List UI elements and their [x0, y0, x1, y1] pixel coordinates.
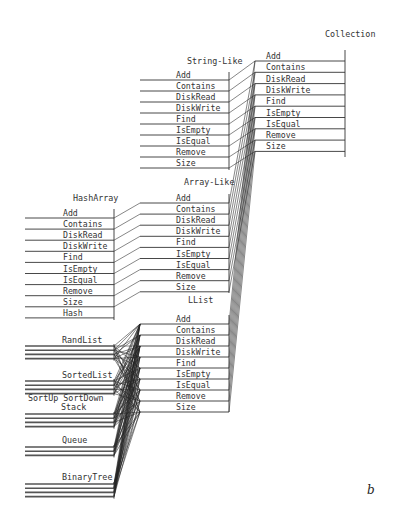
method-label: Find [176, 358, 196, 368]
method-label: Contains [266, 62, 306, 72]
node-binary-tree: BinaryTree [25, 472, 114, 499]
method-label: IsEqual [176, 260, 211, 270]
method-label: Add [63, 208, 78, 218]
method-label: Find [266, 96, 286, 106]
method-label: IsEmpty [176, 369, 211, 379]
method-label: Contains [63, 219, 103, 229]
method-label: Size [176, 158, 196, 168]
node-title-array-like: Array-Like [184, 177, 234, 187]
node-hash-array: HashArray AddContainsDiskReadDiskWriteFi… [25, 193, 118, 320]
method-label: DiskWrite [63, 241, 107, 251]
method-label: Size [266, 141, 286, 151]
figure-label: b [367, 483, 375, 497]
method-label: Remove [176, 271, 206, 281]
method-label: DiskRead [63, 230, 103, 240]
node-title-string-like: String-Like [187, 56, 242, 66]
node-title-stack: Stack [61, 402, 86, 412]
method-label: IsEqual [63, 275, 98, 285]
node-title-hash-array: HashArray [73, 193, 118, 203]
inherit-link [114, 412, 140, 492]
node-title-binary-tree: BinaryTree [62, 472, 112, 482]
method-label: Add [176, 70, 191, 80]
node-title-rand-list: RandList [62, 335, 102, 345]
method-label: Add [266, 51, 281, 61]
inherit-link [114, 270, 140, 285]
method-label: DiskWrite [176, 103, 220, 113]
method-label: IsEqual [266, 119, 301, 129]
method-label: Contains [176, 325, 216, 335]
node-llist: LList AddContainsDiskReadDiskWriteFindIs… [140, 295, 229, 412]
inherit-link [114, 292, 140, 307]
method-label: Find [63, 252, 83, 262]
method-label: DiskWrite [176, 226, 220, 236]
method-label: Size [176, 402, 196, 412]
method-label: Size [176, 282, 196, 292]
method-label: Remove [176, 147, 206, 157]
node-sorted-list: SortedList [25, 370, 114, 396]
method-label: Remove [266, 130, 296, 140]
inheritance-diagram: Collection AddContainsDiskReadDiskWriteF… [0, 0, 393, 522]
method-label: IsEmpty [63, 264, 98, 274]
method-label: DiskRead [176, 336, 216, 346]
method-label: Contains [176, 204, 216, 214]
method-label: DiskRead [176, 92, 216, 102]
inherit-link [114, 214, 140, 229]
method-label: Find [176, 237, 196, 247]
method-label: Hash [63, 308, 83, 318]
inherit-link [114, 259, 140, 274]
method-label: Contains [176, 81, 216, 91]
method-label: DiskRead [176, 215, 216, 225]
node-string-like: String-Like AddContainsDiskReadDiskWrite… [140, 56, 242, 170]
node-array-like: Array-Like AddContainsDiskReadDiskWriteF… [140, 177, 234, 293]
method-label: IsEmpty [176, 249, 211, 259]
inherit-link [114, 203, 140, 218]
node-title-sorted-list: SortedList [62, 370, 112, 380]
node-queue: Queue [25, 435, 114, 457]
method-label: Find [176, 114, 196, 124]
method-label: Remove [63, 286, 93, 296]
inherit-link [114, 281, 140, 296]
node-rand-list: RandList [25, 335, 114, 361]
method-label: Remove [176, 391, 206, 401]
node-title-llist: LList [188, 295, 213, 305]
method-label: Add [176, 193, 191, 203]
inherit-link [114, 247, 140, 262]
node-title-collection: Collection [325, 29, 375, 39]
method-label: Add [176, 314, 191, 324]
node-title-queue: Queue [62, 435, 87, 445]
method-label: IsEmpty [266, 108, 301, 118]
diagram-canvas: Collection AddContainsDiskReadDiskWriteF… [0, 0, 393, 522]
method-label: Size [63, 297, 83, 307]
method-label: IsEqual [176, 380, 211, 390]
inherit-link [114, 236, 140, 251]
inherit-link [114, 225, 140, 240]
node-stack: Stack [25, 402, 114, 429]
method-label: DiskWrite [176, 347, 220, 357]
method-label: DiskWrite [266, 85, 310, 95]
method-label: IsEqual [176, 136, 211, 146]
node-collection: Collection AddContainsDiskReadDiskWriteF… [255, 29, 375, 157]
method-label: DiskRead [266, 74, 306, 84]
method-label: IsEmpty [176, 125, 211, 135]
